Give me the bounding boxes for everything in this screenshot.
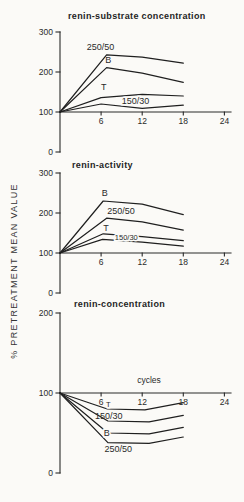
y-tick-label: 100: [39, 248, 53, 258]
series-line-T: [60, 393, 183, 410]
panel-3: 01002006121824cyclesT150/30B250/50: [39, 308, 231, 478]
y-tick-label: 200: [39, 308, 53, 318]
y-tick-label: 200: [39, 208, 53, 218]
series-label-250-50: 250/50: [105, 444, 133, 454]
x-tick-label: 6: [99, 397, 104, 407]
series-label-B: B: [105, 55, 111, 65]
x-tick-label: 24: [220, 397, 230, 407]
panel-1: 01002003006121824250/50BT150/30: [39, 27, 231, 157]
x-tick-label: 18: [179, 257, 189, 267]
series-label-150-30: 150/30: [95, 411, 123, 421]
x-axis-title: cycles: [137, 375, 161, 385]
series-label-250-50: 250/50: [107, 206, 135, 216]
y-tick-label: 200: [39, 67, 53, 77]
y-tick-label: 300: [39, 168, 53, 178]
series-label-150-30: 150/30: [122, 96, 150, 106]
panel-2: 01002003006121824B250/50T150/30: [39, 168, 231, 298]
series-label-250-50: 250/50: [87, 42, 115, 52]
x-tick-label: 24: [220, 257, 230, 267]
series-label-150-30: 150/30: [115, 233, 138, 242]
chart-canvas: 01002003006121824250/50BT150/30010020030…: [0, 0, 244, 502]
series-label-T: T: [101, 82, 107, 92]
x-tick-label: 18: [179, 397, 189, 407]
y-tick-label: 100: [39, 388, 53, 398]
x-tick-label: 24: [220, 116, 230, 126]
y-tick-label: 0: [48, 468, 53, 478]
series-label-B: B: [102, 188, 108, 198]
y-tick-label: 0: [48, 147, 53, 157]
series-label-T: T: [103, 223, 109, 233]
x-tick-label: 6: [99, 116, 104, 126]
y-tick-label: 0: [48, 288, 53, 298]
x-tick-label: 12: [137, 116, 147, 126]
x-tick-label: 12: [137, 257, 147, 267]
x-tick-label: 18: [179, 116, 189, 126]
figure: % PRETREATMENT MEAN VALUE renin-substrat…: [0, 0, 244, 502]
y-tick-label: 300: [39, 27, 53, 37]
y-tick-label: 100: [39, 107, 53, 117]
series-label-T: T: [106, 400, 111, 409]
x-tick-label: 6: [99, 257, 104, 267]
x-tick-label: 12: [137, 397, 147, 407]
series-label-B: B: [104, 428, 110, 438]
